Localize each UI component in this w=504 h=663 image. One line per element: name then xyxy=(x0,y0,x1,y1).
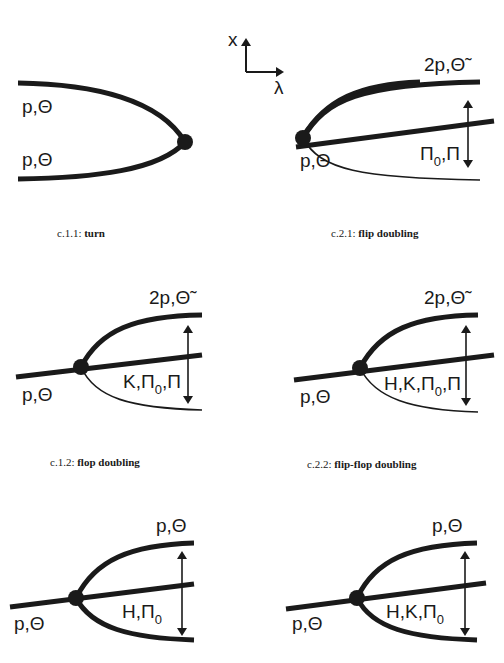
incoming-label: p,Θ xyxy=(300,386,331,407)
upper-label: 2p,Θ̃ xyxy=(149,287,197,308)
panel-turn: p,Θ p,Θ xyxy=(18,83,193,179)
caption-flop-doubling: c.1.2: flop doubling xyxy=(50,456,140,468)
upper-branch-label: p,Θ xyxy=(22,96,53,117)
bifurcation-point-icon xyxy=(177,134,193,150)
lambda-axis-label: λ xyxy=(274,77,284,98)
upper-label: 2p,Θ̃ xyxy=(424,287,472,308)
bifurcation-point-icon xyxy=(73,359,89,375)
upper-branch-stable xyxy=(303,82,480,138)
bifurcation-point-icon xyxy=(295,130,311,146)
caption-code: c.2.1: xyxy=(331,227,355,239)
caption-name: flip-flop doubling xyxy=(334,458,416,470)
incoming-label: p,Θ xyxy=(292,613,323,634)
upper-label: p,Θ xyxy=(156,515,187,536)
bifurcation-point-icon xyxy=(68,590,84,606)
caption-flip-doubling: c.2.1: flip doubling xyxy=(331,227,418,239)
bifurcation-point-icon xyxy=(352,360,368,376)
caption-name: flop doubling xyxy=(77,456,140,468)
caption-code: c.1.2: xyxy=(50,456,74,468)
arrow-label: H,K,Π0,Π xyxy=(384,373,461,399)
bifurcation-point-icon xyxy=(349,590,365,606)
upper-label: p,Θ xyxy=(432,515,463,536)
panel-flop-doubling: 2p,Θ̃ p,Θ K,Π0,Π xyxy=(16,287,202,410)
main-branch xyxy=(10,584,194,607)
caption-name: flip doubling xyxy=(358,227,418,239)
panel-flip-doubling: 2p,Θ̃ p,Θ Π0,Π xyxy=(295,54,494,180)
arrow-label: H,Π0 xyxy=(122,601,162,627)
caption-flip-flop-doubling: c.2.2: flip-flop doubling xyxy=(307,458,416,470)
arrow-label: Π0,Π xyxy=(420,143,460,169)
axes-indicator: x λ xyxy=(228,29,284,98)
incoming-label: p,Θ xyxy=(14,613,45,634)
panel-symmetric-pitchfork-left: p,Θ p,Θ H,Π0 xyxy=(10,515,194,640)
caption-code: c.1.1: xyxy=(57,227,81,239)
main-branch xyxy=(296,121,494,147)
panel-symmetric-pitchfork-right: p,Θ p,Θ H,K,Π0 xyxy=(286,515,486,640)
incoming-label: p,Θ xyxy=(22,384,53,405)
bifurcation-diagram: x λ p,Θ p,Θ 2p,Θ̃ p,Θ Π0,Π 2p,Θ̃ p,Θ K,Π… xyxy=(0,0,504,663)
caption-code: c.2.2: xyxy=(307,458,331,470)
caption-name: turn xyxy=(84,227,105,239)
arrow-label: K,Π0,Π xyxy=(123,371,181,397)
incoming-label: p,Θ xyxy=(300,150,331,171)
x-axis-label: x xyxy=(228,29,238,50)
upper-branch xyxy=(303,82,420,137)
panel-flip-flop-doubling: 2p,Θ̃ p,Θ H,K,Π0,Π xyxy=(294,287,494,412)
upper-label: 2p,Θ̃ xyxy=(424,54,472,75)
lower-branch-label: p,Θ xyxy=(22,149,53,170)
arrow-label: H,K,Π0 xyxy=(386,601,444,627)
caption-turn: c.1.1: turn xyxy=(57,227,105,239)
